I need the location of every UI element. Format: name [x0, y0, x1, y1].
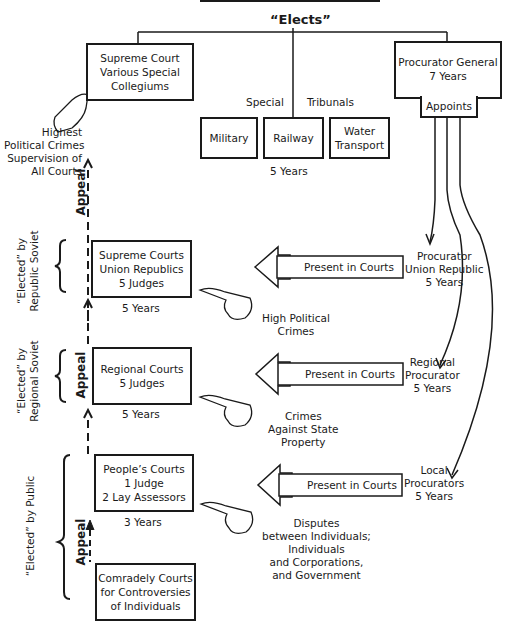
elected-by-regional-soviet: “Elected” by Regional Soviet [15, 331, 41, 431]
court-line: for Controversies [100, 585, 190, 599]
jurisdiction-line: Against State [268, 423, 339, 436]
level-term: 3 Years [124, 516, 162, 529]
jurisdiction-line: between Individuals; [262, 530, 371, 543]
court-line: 5 Judges [119, 376, 164, 390]
procurator-line: Procurator [405, 369, 460, 382]
jurisdiction-line: and Government [262, 569, 371, 582]
procurator-line: Local [404, 464, 464, 477]
jurisdiction-line: Individuals [262, 543, 371, 556]
local-procurators: Local Procurators 5 Years [404, 464, 464, 503]
peoples-courts-box: People’s Courts 1 Judge 2 Lay Assessors [94, 454, 194, 512]
court-line: Regional Courts [101, 362, 184, 376]
procurator-line: Union Republic [405, 263, 484, 276]
regional-procurator: Regional Procurator 5 Years [405, 356, 460, 395]
present-in-courts-label: Present in Courts [304, 261, 394, 274]
jurisdiction-line: Disputes [262, 517, 371, 530]
procurator-line: Regional [405, 356, 460, 369]
jurisdiction-line: Property [268, 436, 339, 449]
procurator-line: Procurator [405, 250, 484, 263]
jurisdiction-line: Crimes [268, 410, 339, 423]
court-line: 1 Judge [124, 476, 164, 490]
court-line: People’s Courts [103, 462, 184, 476]
level-term: 5 Years [122, 408, 160, 421]
present-in-courts-label: Present in Courts [307, 479, 397, 492]
procurator-line: Procurators [404, 477, 464, 490]
regional-courts-box: Regional Courts 5 Judges [92, 347, 192, 405]
jurisdiction-line: and Corporations, [262, 556, 371, 569]
elected-line: “Elected” by [15, 331, 28, 431]
elected-line: Regional Soviet [28, 331, 41, 431]
present-in-courts-label: Present in Courts [305, 368, 395, 381]
procurator-line: 5 Years [405, 276, 484, 289]
procurator-line: 5 Years [404, 490, 464, 503]
elected-by-public: “Elected” by Public [24, 466, 36, 586]
jurisdiction-label: Disputes between Individuals; Individual… [262, 517, 371, 582]
court-line: of Individuals [110, 599, 180, 613]
jurisdiction-label: Crimes Against State Property [268, 410, 339, 449]
procurator-union-republic: Procurator Union Republic 5 Years [405, 250, 484, 289]
procurator-line: 5 Years [405, 382, 460, 395]
comradely-courts-box: Comradely Courts for Controversies of In… [95, 563, 196, 621]
court-line: Comradely Courts [98, 571, 193, 585]
court-line: 2 Lay Assessors [102, 490, 186, 504]
present-arrow-icon [0, 0, 517, 639]
